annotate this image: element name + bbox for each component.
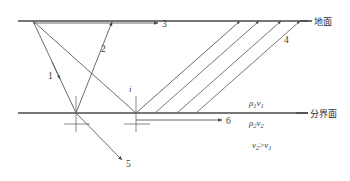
- label-velocity-condition: v2>v1: [252, 140, 272, 151]
- label-lower-medium-params: ρ2v2: [248, 118, 265, 129]
- upper-velocity-subscript: 1: [261, 102, 264, 109]
- seismic-ray-diagram: 1 2 3 4 5 6 i 地面 分界面 ρ1v1 ρ2v2 v2>v1: [0, 0, 350, 181]
- label-ray-2: 2: [101, 44, 106, 54]
- label-ray-6: 6: [226, 116, 231, 126]
- label-ray-3: 3: [162, 19, 167, 29]
- label-interface: 分界面: [310, 109, 337, 119]
- label-ground-surface: 地面: [314, 16, 332, 27]
- label-ray-5: 5: [126, 159, 131, 169]
- diagram-canvas: 1 2 3 4 5 6 i 地面 分界面 ρ1v1 ρ2v2 v2>v1: [0, 0, 350, 181]
- condition-right-subscript: 1: [268, 144, 271, 151]
- head-wave-ray-a: [136, 21, 240, 113]
- ray-1-arrowhead: [52, 62, 60, 79]
- ray-path-5-transmitted: [76, 113, 122, 160]
- ray-path-critical-incident: [33, 21, 136, 113]
- label-ray-1: 1: [48, 71, 53, 81]
- label-ray-4: 4: [284, 35, 289, 45]
- ray-path-2-reflected: [76, 22, 112, 113]
- label-upper-medium-params: ρ1v1: [248, 98, 264, 109]
- head-wave-ray-c: [177, 21, 281, 113]
- head-wave-ray-b: [155, 21, 259, 113]
- label-incidence-angle: i: [129, 84, 132, 94]
- lower-velocity-subscript: 2: [261, 122, 265, 129]
